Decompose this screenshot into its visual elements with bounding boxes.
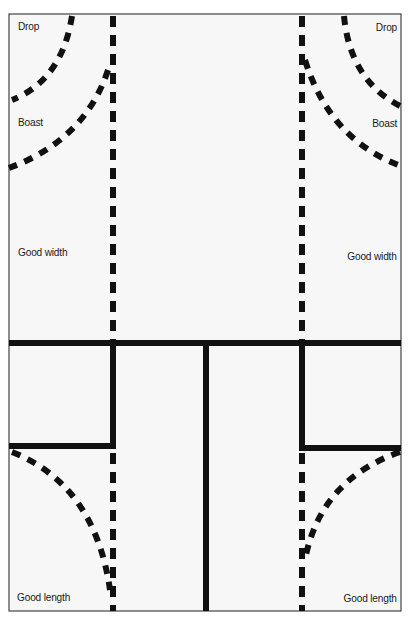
good-width-left-label: Good width (18, 246, 67, 258)
good-length-right-label: Good length (344, 592, 397, 604)
good-width-right-label: Good width (348, 250, 397, 262)
good-length-left-label: Good length (17, 591, 70, 603)
boast-right-label: Boast (372, 117, 397, 129)
drop-left-label: Drop (18, 20, 39, 32)
drop-right-label: Drop (376, 21, 397, 33)
court-drawing (0, 0, 414, 636)
boast-left-label: Boast (18, 116, 43, 128)
page-bottom-margin (0, 612, 414, 636)
squash-court-diagram: Drop Drop Boast Boast Good width Good wi… (0, 0, 414, 636)
